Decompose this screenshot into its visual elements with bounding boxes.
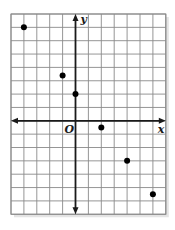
data-point xyxy=(150,191,156,197)
data-point xyxy=(124,158,130,164)
coordinate-plane: y x O xyxy=(0,0,175,230)
data-point xyxy=(60,72,66,78)
origin-label: O xyxy=(65,123,75,136)
data-point xyxy=(21,24,27,30)
x-axis-label: x xyxy=(157,123,165,136)
data-point xyxy=(98,124,104,130)
data-point xyxy=(73,91,79,97)
